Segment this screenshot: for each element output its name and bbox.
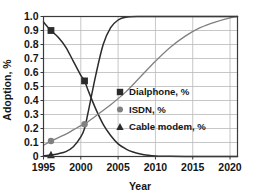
x-tick-label: 2020	[218, 161, 242, 173]
y-tick-label: 0	[33, 150, 39, 162]
legend-item-label: Dialphone, %	[129, 86, 190, 97]
adoption-curves-chart: 199520002005201020152020 00.10.20.30.40.…	[0, 0, 253, 195]
y-tick-label: 0.8	[24, 38, 39, 50]
y-tick-label: 0.7	[24, 52, 39, 64]
x-axis-label: Year	[129, 180, 151, 192]
y-tick-label: 0.9	[24, 24, 39, 36]
y-tick-label: 0.5	[24, 80, 39, 92]
y-tick-label: 0.3	[24, 108, 39, 120]
y-tick-label: 0.4	[24, 94, 39, 106]
y-tick-label: 0.6	[24, 66, 39, 78]
x-tick-label: 2010	[144, 161, 168, 173]
x-tick-label: 2000	[69, 161, 93, 173]
y-tick-label: 1.0	[24, 10, 39, 22]
x-tick-label: 1995	[32, 161, 56, 173]
legend-item-label: Cable modem, %	[129, 121, 206, 132]
legend-item-label: ISDN, %	[129, 104, 166, 115]
y-tick-label: 0.1	[24, 136, 39, 148]
y-axis-label: Adoption, %	[1, 59, 13, 121]
x-tick-label: 2015	[181, 161, 205, 173]
x-tick-label: 2005	[106, 161, 130, 173]
y-tick-label: 0.2	[24, 122, 39, 134]
